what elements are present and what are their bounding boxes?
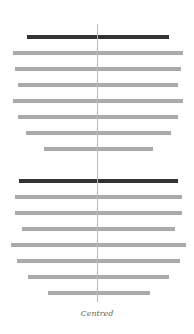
heading-bar bbox=[19, 179, 178, 183]
text-line-bar bbox=[15, 211, 182, 215]
text-line-bar bbox=[13, 99, 183, 103]
text-line-bar bbox=[18, 83, 178, 87]
text-line-bar bbox=[26, 131, 171, 135]
text-line-bar bbox=[48, 291, 150, 295]
text-line-bar bbox=[13, 51, 183, 55]
caption: Centred bbox=[0, 309, 194, 318]
text-line-bar bbox=[17, 259, 180, 263]
text-line-bar bbox=[44, 147, 153, 151]
centre-axis-line bbox=[97, 24, 98, 302]
heading-bar bbox=[27, 35, 169, 39]
text-line-bar bbox=[22, 227, 175, 231]
text-line-bar bbox=[15, 67, 181, 71]
text-line-bar bbox=[28, 275, 169, 279]
text-line-bar bbox=[11, 243, 186, 247]
text-line-bar bbox=[18, 115, 178, 119]
text-line-bar bbox=[15, 195, 182, 199]
